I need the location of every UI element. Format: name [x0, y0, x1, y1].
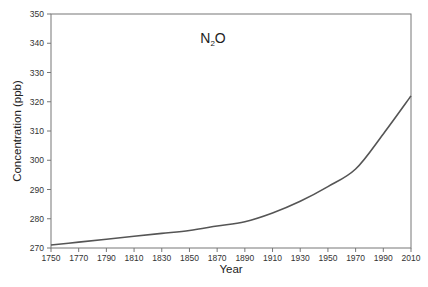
x-tick-label: 1750 [42, 253, 61, 263]
x-tick-label: 1850 [180, 253, 199, 263]
x-tick-label: 1970 [346, 253, 365, 263]
chart-title: N2O [200, 30, 226, 48]
x-tick-label: 2010 [402, 253, 421, 263]
y-tick-label: 270 [30, 243, 44, 253]
x-tick-label: 1890 [235, 253, 254, 263]
y-axis-title: Concentration (ppb) [11, 80, 23, 182]
x-tick-label: 1990 [374, 253, 393, 263]
y-axis: 270280290300310320330340350 [30, 9, 51, 253]
y-tick-label: 330 [30, 68, 44, 78]
x-tick-label: 1810 [125, 253, 144, 263]
x-tick-label: 1830 [152, 253, 171, 263]
y-tick-label: 280 [30, 214, 44, 224]
x-tick-label: 1870 [208, 253, 227, 263]
x-tick-label: 1790 [97, 253, 116, 263]
x-tick-label: 1910 [263, 253, 282, 263]
y-tick-label: 310 [30, 126, 44, 136]
x-axis-title: Year [219, 263, 242, 275]
plot-border [51, 14, 411, 248]
plot-area [51, 14, 411, 248]
y-tick-label: 340 [30, 38, 44, 48]
y-tick-label: 320 [30, 97, 44, 107]
n2o-series-line [51, 96, 411, 245]
y-tick-label: 290 [30, 185, 44, 195]
n2o-concentration-chart: 270280290300310320330340350 175017701790… [0, 0, 428, 287]
y-tick-label: 350 [30, 9, 44, 19]
x-tick-label: 1950 [318, 253, 337, 263]
x-tick-label: 1930 [291, 253, 310, 263]
x-axis: 1750177017901810183018501870189019101930… [42, 248, 421, 263]
y-tick-label: 300 [30, 155, 44, 165]
x-tick-label: 1770 [69, 253, 88, 263]
